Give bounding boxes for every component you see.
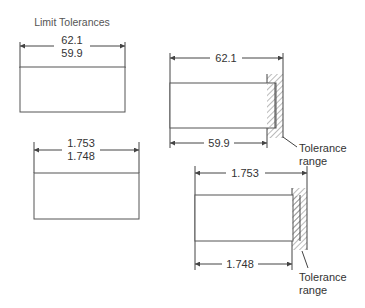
- callout-label-line2: range: [299, 284, 327, 296]
- max-dimension-label: 1.753: [231, 167, 259, 179]
- callout-label-line1: Tolerance: [299, 271, 347, 283]
- callout-leader: [283, 137, 297, 147]
- min-dimension-label: 1.748: [226, 258, 254, 270]
- upper-limit-label: 1.753: [67, 137, 95, 149]
- callout-leader: [302, 251, 308, 268]
- metric-limit-example: 62.1 59.9: [20, 34, 125, 112]
- part-end-hatch: [267, 84, 275, 127]
- metric-tolerance-detail: 62.1 59.9 Tolerance range: [170, 52, 347, 167]
- part-rectangle: [170, 83, 276, 128]
- max-dimension-label: 62.1: [215, 52, 236, 64]
- inch-tolerance-detail: 1.753 1.748 Tolerance range: [195, 166, 347, 296]
- callout-label-line2: range: [299, 155, 327, 167]
- inch-limit-example: 1.753 1.748: [34, 137, 139, 219]
- lower-limit-label: 59.9: [61, 47, 82, 59]
- part-end-hatch: [292, 196, 300, 240]
- upper-limit-label: 62.1: [61, 34, 82, 46]
- lower-limit-label: 1.748: [67, 150, 95, 162]
- min-dimension-label: 59.9: [208, 137, 229, 149]
- part-rectangle: [34, 173, 139, 219]
- limit-tolerance-diagram: Limit Tolerances 62.1 59.9 1.753 1.748 6…: [0, 0, 365, 308]
- part-rectangle: [20, 67, 125, 112]
- diagram-title: Limit Tolerances: [34, 16, 110, 28]
- part-rectangle: [195, 195, 293, 241]
- callout-label-line1: Tolerance: [299, 142, 347, 154]
